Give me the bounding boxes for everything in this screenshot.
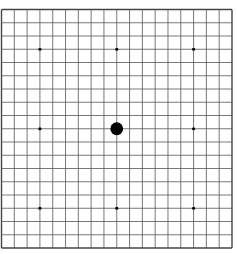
- star-point: [38, 48, 41, 51]
- star-point: [38, 127, 41, 130]
- star-point: [115, 207, 118, 210]
- stones-layer[interactable]: [110, 122, 123, 135]
- star-point: [38, 207, 41, 210]
- star-point: [192, 127, 195, 130]
- star-point: [192, 207, 195, 210]
- star-point: [115, 48, 118, 51]
- go-board[interactable]: [0, 0, 237, 254]
- star-point: [192, 48, 195, 51]
- black-stone[interactable]: [110, 122, 123, 135]
